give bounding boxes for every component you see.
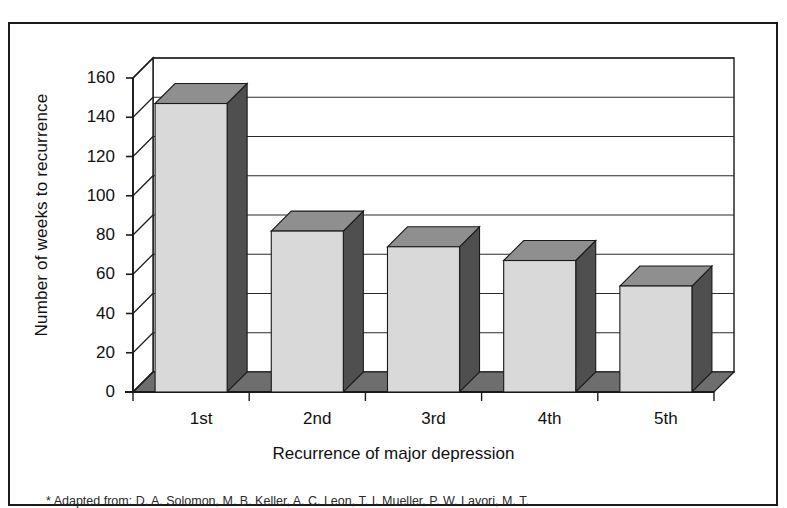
bar-front-face xyxy=(504,261,576,392)
bar-top-face xyxy=(155,84,247,104)
bar-front-face xyxy=(271,231,343,392)
axis-rung xyxy=(133,137,153,157)
x-tick-label: 2nd xyxy=(282,409,352,429)
y-tick-label: 140 xyxy=(67,108,115,125)
plot-back-wall xyxy=(153,58,734,372)
y-tick-label: 60 xyxy=(67,265,115,282)
x-tick-label: 4th xyxy=(515,409,585,429)
figure-caption: * Adapted from: D. A. Solomon, M. B. Kel… xyxy=(46,494,746,508)
y-tick-label: 20 xyxy=(67,344,115,361)
y-tick-label: 100 xyxy=(67,187,115,204)
bar-side-face xyxy=(227,84,247,392)
y-tick-label: 160 xyxy=(67,69,115,86)
y-tick-label: 80 xyxy=(67,226,115,243)
bar-front-face xyxy=(620,286,692,392)
y-tick-label: 0 xyxy=(67,383,115,400)
bar-front-face xyxy=(387,247,459,392)
axis-rung xyxy=(133,58,153,78)
bar-front-face xyxy=(155,104,227,392)
y-tick-label: 40 xyxy=(67,305,115,322)
y-tick-label: 120 xyxy=(67,148,115,165)
bar-side-face xyxy=(692,266,712,392)
axis-rung xyxy=(133,97,153,117)
axis-rung xyxy=(133,294,153,314)
plot-floor xyxy=(133,372,734,392)
axis-rung xyxy=(133,372,153,392)
axis-rung xyxy=(133,215,153,235)
plot-left-wall xyxy=(133,58,153,392)
plot-area: 0204060801001201401601st2nd3rd4th5th xyxy=(0,0,787,508)
x-tick-label: 1st xyxy=(166,409,236,429)
axis-rung xyxy=(133,176,153,196)
bar-side-face xyxy=(343,211,363,392)
chart-figure: Number of weeks to recurrence Recurrence… xyxy=(0,0,787,508)
x-tick-label: 3rd xyxy=(399,409,469,429)
bar-side-face xyxy=(576,241,596,392)
bar-top-face xyxy=(271,211,363,231)
bar-top-face xyxy=(620,266,712,286)
bar-side-face xyxy=(460,227,480,392)
plot-3d-walls xyxy=(0,0,787,508)
axis-rung xyxy=(133,254,153,274)
bar-top-face xyxy=(387,227,479,247)
x-tick-label: 5th xyxy=(631,409,701,429)
axis-rung xyxy=(133,333,153,353)
bar-top-face xyxy=(504,241,596,261)
